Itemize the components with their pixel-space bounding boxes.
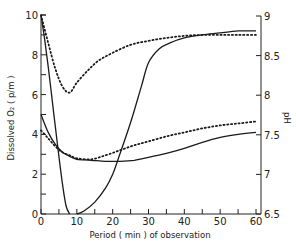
series <box>41 15 256 214</box>
y-tick-label: 4 <box>32 129 38 140</box>
x-tick-label: 50 <box>214 216 227 227</box>
y-tick-label: 8 <box>32 50 38 61</box>
x-axis-label: Period ( min ) of observation <box>89 230 210 240</box>
y2-tick-label: 7 <box>264 169 270 180</box>
series-line-4 <box>41 122 256 160</box>
x-tick-label: 40 <box>178 216 191 227</box>
x-tick-label: 10 <box>70 216 83 227</box>
x-tick-label: 30 <box>142 216 155 227</box>
x-tick-label: 20 <box>106 216 119 227</box>
y-tick-label: 6 <box>32 90 38 101</box>
y-tick-label: 10 <box>25 10 38 21</box>
y2-axis-label: pH <box>282 112 292 124</box>
y2-tick-label: 7.5 <box>264 130 280 141</box>
chart: 024681001020304050606.577.588.59 Period … <box>0 0 296 244</box>
x-tick-label: 60 <box>250 216 263 227</box>
y2-tick-label: 6.5 <box>264 209 280 220</box>
series-line-3 <box>41 115 256 162</box>
y-tick-label: 2 <box>32 169 38 180</box>
y2-tick-label: 8.5 <box>264 51 280 62</box>
series-line-2 <box>41 15 256 93</box>
y2-tick-label: 9 <box>264 11 270 22</box>
y2-tick-label: 8 <box>264 90 270 101</box>
x-tick-label: 0 <box>38 216 44 227</box>
y-axis-label: Dissolved O₂ ( p/m ) <box>6 75 16 160</box>
axes <box>41 15 261 214</box>
